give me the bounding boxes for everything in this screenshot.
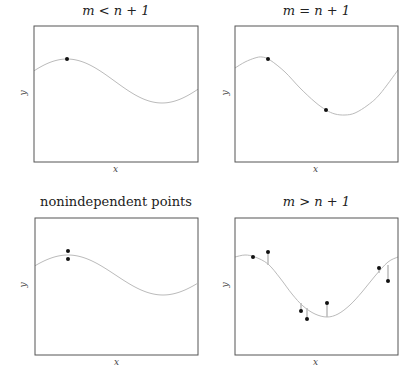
data-point: [65, 57, 69, 61]
fit-curve: [35, 255, 197, 295]
fit-curve: [235, 255, 398, 317]
fit-curve: [34, 59, 198, 103]
data-point: [266, 57, 270, 61]
fit-curve: [235, 57, 398, 115]
data-point: [386, 279, 390, 283]
data-point: [251, 255, 255, 259]
plot-canvas: [0, 0, 419, 375]
plot-frame: [235, 26, 398, 162]
plot-frame: [34, 26, 198, 162]
data-point: [325, 301, 329, 305]
data-point: [66, 257, 70, 261]
data-point: [377, 266, 381, 270]
data-point: [324, 108, 328, 112]
data-point: [299, 309, 303, 313]
plot-frame: [35, 218, 198, 355]
data-point: [266, 250, 270, 254]
data-point: [66, 249, 70, 253]
plot-frame: [235, 218, 398, 355]
data-point: [305, 317, 309, 321]
